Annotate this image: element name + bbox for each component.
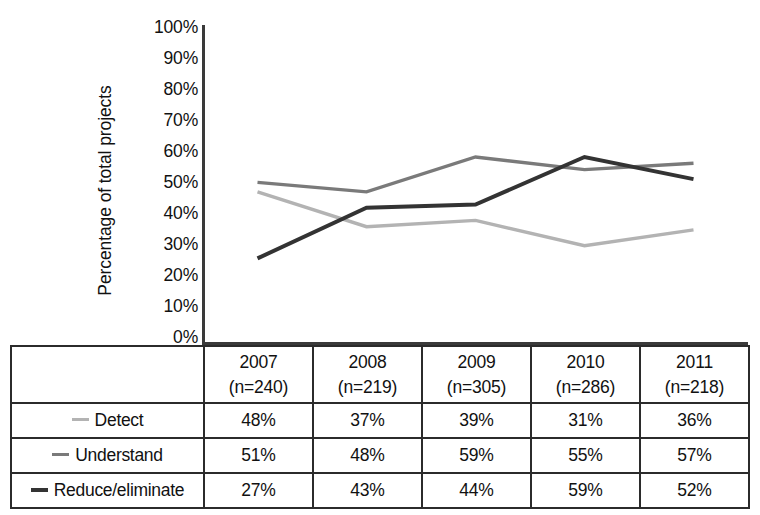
header-sample-size: (n=219): [314, 375, 421, 400]
table-row: Detect48%37%39%31%36%: [11, 403, 749, 438]
table-cell-value: 59%: [422, 438, 531, 473]
table-row: Reduce/eliminate27%43%44%59%52%: [11, 473, 749, 508]
header-sample-size: (n=305): [423, 375, 530, 400]
line-series-svg: [203, 25, 748, 345]
legend-line-swatch-icon: [72, 418, 89, 421]
table-cell-value: 48%: [313, 438, 422, 473]
line-series-understand: [258, 157, 694, 192]
y-axis-tick-70: 70%: [120, 111, 198, 129]
table-header-year-2010: 2010(n=286): [531, 346, 640, 403]
chart-figure: Percentage of total projects 100%90%80%7…: [0, 0, 760, 515]
table-cell-value: 51%: [204, 438, 313, 473]
header-year-label: 2009: [423, 350, 530, 375]
table-header-year-2008: 2008(n=219): [313, 346, 422, 403]
table-header-row: 2007(n=240)2008(n=219)2009(n=305)2010(n=…: [11, 346, 749, 403]
header-year-label: 2008: [314, 350, 421, 375]
legend-cell-understand: Understand: [11, 438, 204, 473]
y-axis-tick-60: 60%: [120, 142, 198, 160]
line-series-reduce-eliminate: [258, 157, 694, 258]
legend-line-swatch-icon: [52, 453, 69, 456]
header-year-label: 2007: [205, 350, 312, 375]
legend-cell-detect: Detect: [11, 403, 204, 438]
legend-label: Reduce/eliminate: [54, 480, 184, 501]
table-cell-value: 36%: [640, 403, 749, 438]
header-sample-size: (n=240): [205, 375, 312, 400]
y-axis-tick-10: 10%: [120, 297, 198, 315]
table-cell-value: 39%: [422, 403, 531, 438]
table-cell-value: 59%: [531, 473, 640, 508]
table-cell-value: 52%: [640, 473, 749, 508]
line-series-detect: [258, 192, 694, 246]
header-sample-size: (n=286): [532, 375, 639, 400]
table-header-blank: [11, 346, 204, 403]
table-cell-value: 27%: [204, 473, 313, 508]
y-axis-tick-20: 20%: [120, 266, 198, 284]
table-cell-value: 48%: [204, 403, 313, 438]
y-axis-title: Percentage of total projects: [95, 68, 116, 313]
table-cell-value: 55%: [531, 438, 640, 473]
table-cell-value: 44%: [422, 473, 531, 508]
table-row: Understand51%48%59%55%57%: [11, 438, 749, 473]
header-year-label: 2011: [641, 350, 748, 375]
y-axis-tick-40: 40%: [120, 204, 198, 222]
y-axis-tick-50: 50%: [120, 173, 198, 191]
data-table: 2007(n=240)2008(n=219)2009(n=305)2010(n=…: [10, 345, 750, 509]
table-header-year-2009: 2009(n=305): [422, 346, 531, 403]
y-axis-tick-0: 0%: [120, 328, 198, 346]
plot-area: [203, 25, 748, 345]
table-header-year-2007: 2007(n=240): [204, 346, 313, 403]
table-cell-value: 57%: [640, 438, 749, 473]
legend-line-swatch-icon: [31, 488, 48, 492]
legend-label: Detect: [95, 410, 144, 431]
header-sample-size: (n=218): [641, 375, 748, 400]
table-cell-value: 43%: [313, 473, 422, 508]
table-header-year-2011: 2011(n=218): [640, 346, 749, 403]
y-axis-tick-30: 30%: [120, 235, 198, 253]
table-cell-value: 31%: [531, 403, 640, 438]
header-year-label: 2010: [532, 350, 639, 375]
y-axis-tick-labels: 100%90%80%70%60%50%40%30%20%10%0%: [120, 20, 198, 350]
y-axis-tick-90: 90%: [120, 49, 198, 67]
y-axis-tick-80: 80%: [120, 80, 198, 98]
table-cell-value: 37%: [313, 403, 422, 438]
legend-cell-reduce-eliminate: Reduce/eliminate: [11, 473, 204, 508]
y-axis-tick-100: 100%: [120, 18, 198, 36]
legend-label: Understand: [75, 445, 162, 466]
